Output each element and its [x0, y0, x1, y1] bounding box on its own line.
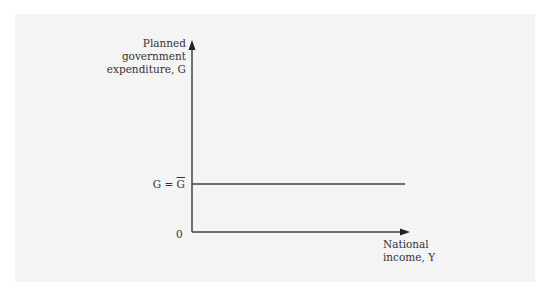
x-label-line-1: National — [383, 238, 435, 251]
g-label-prefix: G = — [153, 178, 177, 190]
x-label-line-2: income, Y — [383, 251, 435, 264]
g-line-label: G = G — [153, 178, 185, 191]
origin-label: 0 — [176, 228, 183, 241]
x-axis-label: National income, Y — [383, 238, 435, 264]
y-axis-label: Planned government expenditure, G — [107, 37, 186, 76]
g-bar-symbol: G — [177, 178, 185, 190]
y-label-line-1: Planned — [107, 37, 186, 50]
y-label-line-3: expenditure, G — [107, 63, 186, 76]
x-axis-arrow-icon — [400, 229, 410, 236]
diagram-axes — [0, 0, 550, 296]
y-axis-arrow-icon — [189, 40, 196, 50]
y-label-line-2: government — [107, 50, 186, 63]
